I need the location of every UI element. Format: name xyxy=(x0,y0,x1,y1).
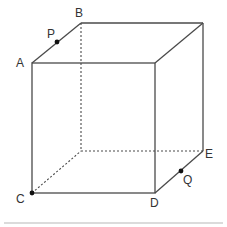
label-D: D xyxy=(150,196,159,210)
label-B: B xyxy=(75,6,83,20)
label-Q: Q xyxy=(183,173,192,187)
label-C: C xyxy=(16,192,25,206)
point-C xyxy=(30,191,35,196)
label-E: E xyxy=(205,147,213,161)
hidden-edge-bottom-diagonal xyxy=(32,151,81,193)
point-P xyxy=(55,40,60,45)
cube-diagram: A B P C D E Q xyxy=(0,0,227,227)
edge-top-right-diagonal xyxy=(155,23,203,63)
label-P: P xyxy=(47,27,55,41)
front-face xyxy=(32,63,155,193)
label-A: A xyxy=(16,56,24,70)
